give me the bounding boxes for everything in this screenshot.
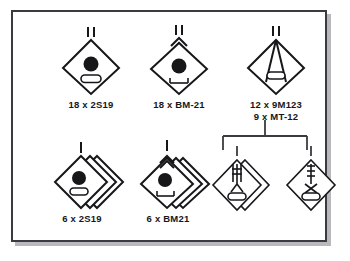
self-propelled-chassis-icon bbox=[81, 75, 101, 83]
symbol-antitank-gun-diamond bbox=[281, 146, 350, 214]
equipment-label-group: 18 x BM-21 bbox=[131, 99, 227, 111]
symbol-rocket-artillery-diamond-self-propelled bbox=[143, 24, 215, 96]
equipment-label-group: 18 x 2S19 bbox=[43, 99, 139, 111]
artillery-dot-icon bbox=[72, 171, 86, 185]
artillery-dot-icon bbox=[172, 59, 187, 74]
diagram-panel: 18 x 2S19 bbox=[11, 10, 327, 242]
equipment-line: 18 x BM-21 bbox=[131, 99, 227, 111]
artillery-dot-icon bbox=[158, 173, 172, 187]
artillery-dot-icon bbox=[84, 57, 99, 72]
symbol-antitank-guided-missile-diamond-stacked bbox=[205, 146, 279, 214]
equipment-line: 6 x BM21 bbox=[111, 213, 225, 225]
unit-antitank-battalion[interactable]: 12 x 9M123 9 x MT-12 bbox=[225, 24, 327, 123]
unit-sp-howitzer-battalion[interactable]: 18 x 2S19 bbox=[43, 24, 139, 111]
echelon-marker-ii bbox=[273, 26, 279, 36]
self-propelled-chassis-icon bbox=[302, 193, 320, 200]
self-propelled-chassis-icon bbox=[267, 72, 285, 79]
diagram-canvas: 18 x 2S19 bbox=[0, 0, 350, 261]
self-propelled-chassis-icon bbox=[70, 188, 88, 195]
echelon-marker-ii bbox=[88, 27, 94, 37]
unit-atgm-battery[interactable] bbox=[205, 146, 279, 214]
symbol-antitank-missile-diamond bbox=[240, 24, 312, 96]
symbol-artillery-diamond-self-propelled bbox=[55, 24, 127, 96]
echelon-marker-ii bbox=[176, 25, 182, 35]
unit-mrl-battalion[interactable]: 18 x BM-21 bbox=[131, 24, 227, 111]
self-propelled-chassis-icon bbox=[228, 193, 246, 200]
diamond-frame bbox=[248, 40, 304, 94]
unit-antitank-gun-battery[interactable] bbox=[281, 146, 350, 214]
symbol-artillery-diamond-self-propelled-stacked bbox=[47, 140, 131, 210]
equipment-line: 12 x 9M123 bbox=[225, 99, 327, 111]
equipment-line: 18 x 2S19 bbox=[43, 99, 139, 111]
equipment-label-group: 6 x BM21 bbox=[111, 213, 225, 225]
